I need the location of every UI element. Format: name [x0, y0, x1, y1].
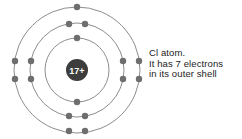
caption-line-1: Cl atom.	[149, 48, 241, 59]
electron-shell2-5	[28, 58, 34, 64]
nucleus-charge-label: 17+	[69, 66, 84, 76]
nucleus: 17+	[66, 59, 88, 81]
electron-shell2-3	[66, 113, 72, 119]
electron-shell3-2	[66, 128, 72, 134]
electron-shell2-1	[66, 21, 72, 27]
caption-line-3: in its outer shell	[149, 69, 241, 80]
electron-shell1-1	[74, 35, 80, 41]
electron-shell1-2	[74, 99, 80, 105]
electron-shell2-4	[82, 113, 88, 119]
electron-shell3-4	[12, 58, 18, 64]
chlorine-atom-diagram: 17+ Cl atom. It has 7 electrons in its o…	[0, 0, 242, 139]
electron-shell2-2	[82, 21, 88, 27]
caption-block: Cl atom. It has 7 electrons in its outer…	[149, 48, 241, 80]
electron-shell3-6	[136, 58, 142, 64]
electron-shell2-7	[120, 58, 126, 64]
electron-shell3-1	[74, 4, 80, 10]
electron-shell3-7	[136, 76, 142, 82]
electron-shell3-5	[12, 76, 18, 82]
electron-shell2-6	[28, 76, 34, 82]
electron-shell2-8	[120, 76, 126, 82]
electron-shell3-3	[82, 128, 88, 134]
